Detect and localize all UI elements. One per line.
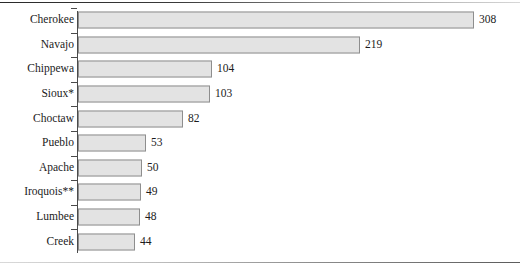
bar-value-label: 44 (140, 236, 152, 248)
bar-value-label: 48 (145, 211, 157, 223)
category-label: Navajo (41, 39, 74, 51)
top-divider-rule (0, 2, 520, 3)
category-label: Pueblo (42, 138, 74, 150)
bar-row: Apache50 (0, 156, 520, 181)
bar-value-label: 50 (147, 162, 159, 174)
bar (78, 184, 141, 201)
axis-tick (71, 131, 77, 132)
bar-value-label: 104 (217, 64, 234, 76)
bar-value-label: 82 (188, 113, 200, 125)
axis-tick (71, 33, 77, 34)
bar-value-label: 308 (479, 15, 496, 27)
bar-row: Creek44 (0, 229, 520, 254)
bar-value-label: 53 (151, 138, 163, 150)
bar-value-label: 219 (365, 39, 382, 51)
bar (78, 86, 210, 103)
axis-tick (71, 229, 77, 230)
bar (78, 36, 360, 53)
category-label: Cherokee (30, 15, 74, 27)
axis-tick (71, 205, 77, 206)
bar-row: Navajo219 (0, 33, 520, 58)
axis-tick (71, 180, 77, 181)
plot-area: Cherokee308Navajo219Chippewa104Sioux*103… (0, 8, 520, 256)
category-label: Lumbee (36, 211, 74, 223)
bar-rows: Cherokee308Navajo219Chippewa104Sioux*103… (0, 8, 520, 254)
bar (78, 12, 474, 29)
bar (78, 233, 135, 250)
bar (78, 135, 146, 152)
bar (78, 159, 142, 176)
bar-chart-figure: Cherokee308Navajo219Chippewa104Sioux*103… (0, 0, 520, 270)
bar-row: Chippewa104 (0, 57, 520, 82)
bar (78, 110, 183, 127)
category-label: Sioux* (41, 88, 74, 100)
axis-tick (71, 8, 77, 9)
category-label: Creek (47, 236, 74, 248)
bar-row: Lumbee48 (0, 205, 520, 230)
bar-row: Choctaw82 (0, 106, 520, 131)
bar-value-label: 103 (215, 88, 232, 100)
axis-tick (71, 82, 77, 83)
category-label: Apache (39, 162, 74, 174)
bar-row: Pueblo53 (0, 131, 520, 156)
bar-row: Sioux*103 (0, 82, 520, 107)
bar-row: Cherokee308 (0, 8, 520, 33)
bar-value-label: 49 (146, 187, 158, 199)
axis-tick (71, 57, 77, 58)
category-label: Iroquois** (24, 187, 74, 199)
axis-tick (71, 156, 77, 157)
category-label: Choctaw (33, 113, 74, 125)
bottom-divider-rule (0, 262, 520, 263)
bar-row: Iroquois**49 (0, 180, 520, 205)
bar (78, 61, 212, 78)
axis-tick (71, 106, 77, 107)
category-label: Chippewa (27, 64, 74, 76)
bar (78, 209, 140, 226)
